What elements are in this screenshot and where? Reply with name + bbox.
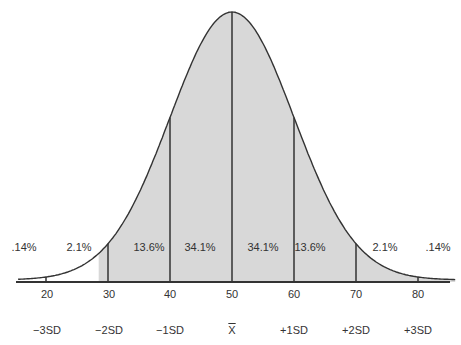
sd-divider-lines — [46, 12, 418, 282]
sd-label-mean: X — [228, 324, 235, 336]
pct-label-below-3sd: .14% — [11, 241, 36, 253]
pct-label-2sd-1sd: 13.6% — [133, 241, 164, 253]
x-tick-80: 80 — [412, 288, 424, 300]
pct-label-above-3sd: .14% — [425, 241, 450, 253]
pct-label-1sd-mean: 34.1% — [184, 241, 215, 253]
sd-label-plus2: +2SD — [342, 324, 370, 336]
sd-label-plus3: +3SD — [404, 324, 432, 336]
x-tick-30: 30 — [103, 288, 115, 300]
pct-label-mean-1sd: 34.1% — [247, 241, 278, 253]
sd-label-minus3: −3SD — [33, 324, 61, 336]
x-tick-60: 60 — [288, 288, 300, 300]
sd-label-minus1: −1SD — [156, 324, 184, 336]
pct-label-2sd-3sd: 2.1% — [372, 241, 397, 253]
x-tick-40: 40 — [164, 288, 176, 300]
sd-label-minus2: −2SD — [95, 324, 123, 336]
x-tick-50: 50 — [226, 288, 238, 300]
pct-label-1sd-2sd: 13.6% — [294, 241, 325, 253]
pct-label-3sd-2sd: 2.1% — [66, 241, 91, 253]
sd-label-plus1: +1SD — [280, 324, 308, 336]
x-tick-70: 70 — [350, 288, 362, 300]
x-tick-20: 20 — [41, 288, 53, 300]
